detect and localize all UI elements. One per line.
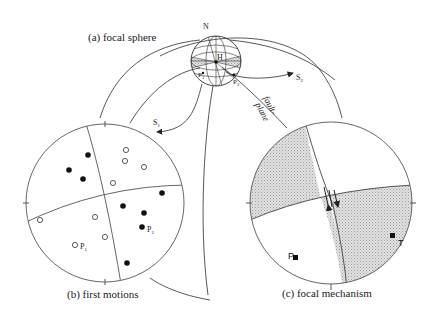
diagram-canvas: (a) focal sphere N H P1 P2 S1 S2 fault- …: [0, 0, 430, 316]
label-a: (a) focal sphere: [88, 31, 157, 44]
label-a-p2: P2: [233, 78, 240, 87]
label-s2: S2: [296, 73, 303, 83]
label-b: (b) first motions: [67, 288, 139, 301]
label-t-axis: T: [398, 238, 404, 248]
label-p-axis: P: [288, 251, 294, 261]
label-north: N: [203, 22, 209, 31]
t-axis-marker: [390, 233, 395, 238]
label-hypocenter: H: [217, 53, 223, 62]
label-fault-plane: fault- plane: [252, 94, 280, 123]
label-c: (c) focal mechanism: [282, 287, 372, 300]
focal-mechanism-beachball: [240, 115, 430, 316]
label-s1: S1: [153, 118, 160, 128]
first-motions-stereonet: [20, 120, 190, 290]
